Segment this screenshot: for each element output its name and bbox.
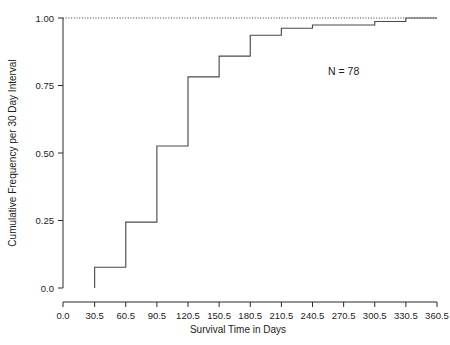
- x-tick-label: 150.5: [207, 310, 231, 321]
- sample-size-annotation: N = 78: [328, 65, 359, 77]
- x-tick-label: 300.5: [363, 310, 387, 321]
- cumulative-step-series: [95, 18, 437, 288]
- x-tick-label: 0.0: [56, 310, 69, 321]
- y-axis-title: Cumulative Frequency per 30 Day Interval: [7, 59, 18, 246]
- y-tick-label: 0.25: [36, 215, 55, 226]
- x-axis: [63, 302, 437, 307]
- x-tick-label: 90.5: [148, 310, 167, 321]
- tick-label-group: 0.00.250.500.751.000.030.560.590.5120.51…: [36, 13, 449, 322]
- x-tick-label: 180.5: [238, 310, 262, 321]
- y-axis: [58, 18, 63, 288]
- y-tick-label: 0.0: [41, 283, 54, 294]
- x-tick-label: 60.5: [117, 310, 136, 321]
- x-tick-label: 330.5: [394, 310, 418, 321]
- chart-canvas: 0.00.250.500.751.000.030.560.590.5120.51…: [0, 0, 450, 345]
- x-tick-label: 240.5: [301, 310, 325, 321]
- x-tick-label: 210.5: [269, 310, 293, 321]
- step-chart-svg: 0.00.250.500.751.000.030.560.590.5120.51…: [0, 0, 450, 345]
- x-axis-title: Survival Time in Days: [190, 324, 286, 335]
- y-tick-label: 0.50: [36, 148, 55, 159]
- x-tick-label: 30.5: [85, 310, 104, 321]
- y-tick-label: 0.75: [36, 80, 55, 91]
- step-line: [95, 18, 437, 288]
- x-tick-label: 360.5: [425, 310, 449, 321]
- x-tick-label: 120.5: [176, 310, 200, 321]
- y-tick-label: 1.00: [36, 13, 55, 24]
- x-tick-label: 270.5: [332, 310, 356, 321]
